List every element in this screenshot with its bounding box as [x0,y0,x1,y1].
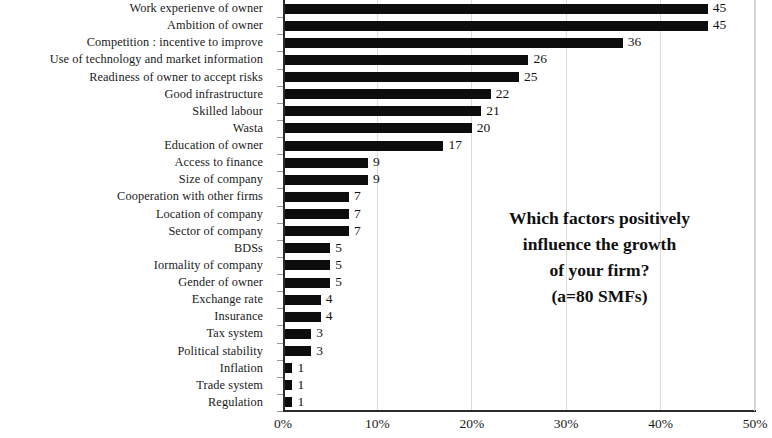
category-label: Exchange rate [0,293,263,306]
bar-value-label: 1 [297,395,304,409]
x-axis-tick-label: 0% [248,416,318,432]
annotation-line-4: (a=80 SMFs) [452,283,747,309]
bar-value-label: 3 [316,326,323,340]
bar [283,4,708,14]
bar-value-label: 5 [335,275,342,289]
category-label: Good infrastructure [0,88,263,101]
x-axis-tick-label: 10% [342,416,412,432]
bar-value-label: 9 [373,172,380,186]
x-axis-tick-label: 30% [531,416,601,432]
bar [283,89,491,99]
bar [283,192,349,202]
bar [283,72,519,82]
category-label: Trade system [0,379,263,392]
bar [283,312,321,322]
bar-value-label: 45 [713,18,727,32]
x-axis-tick-label: 20% [437,416,507,432]
bar-value-label: 4 [326,292,333,306]
annotation-line-3: of your firm? [452,257,747,283]
category-label: Location of company [0,208,263,221]
bar-value-label: 5 [335,258,342,272]
bar-value-label: 22 [496,87,510,101]
category-label: Access to finance [0,156,263,169]
annotation-line-2: influence the growth [452,231,747,257]
category-label: Political stability [0,345,263,358]
bar-value-label: 17 [448,138,462,152]
bar-value-label: 36 [628,35,642,49]
chart-annotation: Which factors positivelyinfluence the gr… [452,205,747,309]
bar-value-label: 26 [533,52,547,66]
category-label: Work experienve of owner [0,2,263,15]
bar-value-label: 5 [335,241,342,255]
category-label: Competition : incentive to improve [0,36,263,49]
bar-value-label: 3 [316,344,323,358]
category-label: BDSs [0,242,263,255]
bar [283,295,321,305]
bar [283,55,528,65]
y-axis-line [283,0,285,412]
category-label: Iormality of company [0,259,263,272]
category-label: Size of company [0,173,263,186]
bar-value-label: 7 [354,189,361,203]
category-label: Gender of owner [0,276,263,289]
bar [283,21,708,31]
bar [283,209,349,219]
bar [283,158,368,168]
category-label: Tax system [0,327,263,340]
bar-value-label: 20 [477,121,491,135]
x-axis-line [283,410,756,412]
category-label: Wasta [0,122,263,135]
bar-value-label: 4 [326,309,333,323]
category-label: Skilled labour [0,105,263,118]
bar [283,123,472,133]
bar [283,106,481,116]
x-axis-tick-label: 40% [626,416,696,432]
bar [283,141,443,151]
bar [283,329,311,339]
category-axis-labels: Work experienve of ownerAmbition of owne… [0,0,272,411]
bar-value-label: 1 [297,378,304,392]
category-label: Readiness of owner to accept risks [0,71,263,84]
bar-value-label: 45 [713,1,727,15]
bar [283,175,368,185]
category-label: Regulation [0,396,263,409]
bar [283,260,330,270]
category-label: Ambition of owner [0,19,263,32]
bar [283,226,349,236]
bar-value-label: 1 [297,361,304,375]
category-label: Use of technology and market information [0,53,263,66]
bar-value-label: 25 [524,70,538,84]
annotation-line-1: Which factors positively [452,205,747,231]
category-label: Inflation [0,362,263,375]
category-label: Education of owner [0,139,263,152]
x-axis-tick-label: 50% [720,416,772,432]
category-label: Insurance [0,310,263,323]
category-label: Sector of company [0,225,263,238]
bar-value-label: 7 [354,207,361,221]
bar [283,243,330,253]
bar-value-label: 7 [354,224,361,238]
category-label: Cooperation with other firms [0,190,263,203]
bar-value-label: 9 [373,155,380,169]
bar [283,278,330,288]
bar [283,38,623,48]
plot-right-border [754,0,755,411]
bar-value-label: 21 [486,104,500,118]
bar [283,346,311,356]
